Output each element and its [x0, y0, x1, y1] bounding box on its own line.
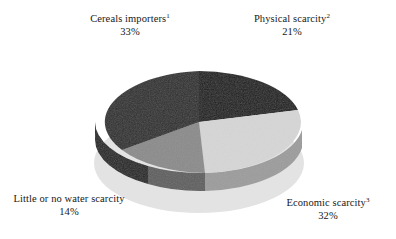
slice-label-cereals-importers: Cereals importers1 33% [55, 12, 205, 38]
pie-chart: Cereals importers1 33% Physical scarcity… [0, 0, 396, 239]
slice-value-cereals-importers: 33% [55, 25, 205, 38]
slice-label-physical-scarcity-text: Physical scarcity2 [222, 12, 362, 25]
slice-label-cereals-importers-text: Cereals importers1 [55, 12, 205, 25]
slice-value-economic-scarcity: 32% [258, 209, 396, 222]
slice-label-little-or-no-water-scarcity-text: Little or no water scarcity [0, 192, 144, 205]
slice-value-physical-scarcity: 21% [222, 25, 362, 38]
footnote-marker-2: 2 [326, 12, 330, 20]
slice-label-physical-scarcity: Physical scarcity2 21% [222, 12, 362, 38]
slice-value-little-or-no-water-scarcity: 14% [0, 205, 144, 218]
footnote-marker-1: 1 [166, 12, 170, 20]
slice-label-economic-scarcity: Economic scarcity3 32% [258, 196, 396, 222]
footnote-marker-3: 3 [366, 196, 370, 204]
slice-label-little-or-no-water-scarcity: Little or no water scarcity 14% [0, 192, 144, 218]
slice-label-economic-scarcity-text: Economic scarcity3 [258, 196, 396, 209]
